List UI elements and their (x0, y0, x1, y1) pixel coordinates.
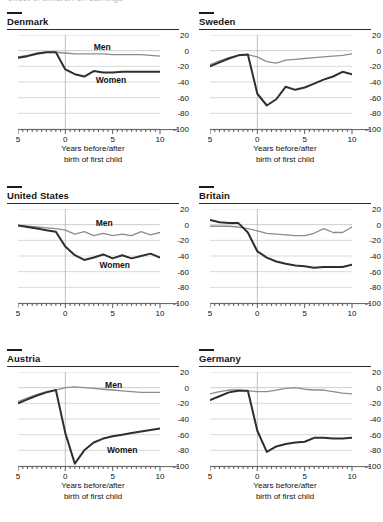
x-tick-label: 0 (63, 135, 67, 144)
caption-line-1: Years before/after (210, 481, 360, 492)
y-axis-labels: 200-20-40-60-80-100 (352, 372, 382, 466)
x-tick-label: 0 (255, 135, 259, 144)
panel-title: Germany (199, 353, 241, 364)
x-tick-label: 0 (255, 309, 259, 318)
x-tick-label: 5 (302, 135, 306, 144)
panel-grid: DenmarkMenWomen200-20-40-60-80-10050510Y… (0, 7, 383, 522)
x-tick-label: 10 (156, 309, 165, 318)
x-axis: 50510 (210, 303, 370, 317)
y-tick-label: -20 (177, 62, 189, 71)
panel-underline (7, 29, 179, 30)
panel-title-rule (199, 12, 214, 14)
y-tick-label: 20 (180, 31, 189, 40)
y-tick-label: -60 (177, 93, 189, 102)
series-label-women: Women (96, 75, 127, 85)
y-tick-label: 0 (377, 383, 381, 392)
plot-area (18, 372, 160, 466)
caption-line-1: Years before/after (18, 144, 168, 155)
series-line-women (210, 391, 352, 452)
plot-area (210, 372, 352, 466)
x-axis: 50510 (18, 129, 178, 143)
caption-line-2: birth of first child (210, 492, 360, 503)
x-axis: 50510 (210, 466, 370, 480)
panel-title-rule (7, 186, 22, 188)
caption-line-2: birth of first child (18, 155, 168, 166)
series-label-men: Men (96, 218, 113, 228)
y-tick-label: 0 (377, 220, 381, 229)
y-axis-labels: 200-20-40-60-80-100 (160, 372, 190, 466)
panel-united-states: United StatesMenWomen200-20-40-60-80-100… (0, 181, 192, 344)
series-label-women: Women (99, 260, 130, 270)
y-tick-label: 20 (372, 31, 381, 40)
cropped-title-text: effect of children on earnings (8, 0, 123, 3)
panel-title-rule (7, 12, 22, 14)
x-axis-caption: Years before/afterbirth of first child (210, 144, 360, 165)
panel-title: Britain (199, 190, 230, 201)
y-tick-label: -40 (177, 415, 189, 424)
x-axis: 50510 (18, 303, 178, 317)
panel-sweden: Sweden200-20-40-60-80-10050510Years befo… (192, 7, 383, 181)
y-axis-labels: 200-20-40-60-80-100 (352, 35, 382, 129)
y-tick-label: -40 (369, 78, 381, 87)
x-tick-label: 5 (110, 135, 114, 144)
x-tick-label: 10 (348, 309, 357, 318)
x-tick-label: 0 (255, 472, 259, 481)
y-tick-label: -80 (369, 283, 381, 292)
x-tick-label: 5 (208, 472, 212, 481)
plot-area (18, 209, 160, 303)
y-axis-labels: 200-20-40-60-80-100 (160, 209, 190, 303)
panel-underline (7, 203, 179, 204)
x-tick-label: 10 (348, 472, 357, 481)
panel-title-rule (199, 349, 214, 351)
x-tick-label: 5 (110, 472, 114, 481)
y-tick-label: -80 (177, 109, 189, 118)
x-tick-label: 5 (302, 309, 306, 318)
x-tick-label: 10 (156, 135, 165, 144)
series-line-men (18, 225, 160, 235)
y-tick-label: 20 (180, 368, 189, 377)
y-tick-label: -40 (369, 252, 381, 261)
x-tick-label: 5 (208, 135, 212, 144)
panel-title: United States (7, 190, 69, 201)
cropped-title-strip: effect of children on earnings (0, 0, 383, 7)
x-axis-caption: Years before/afterbirth of first child (18, 481, 168, 502)
y-tick-label: -80 (369, 109, 381, 118)
series-label-women: Women (107, 445, 138, 455)
chart-sheet: effect of children on earnings DenmarkMe… (0, 0, 383, 522)
panel-germany: Germany200-20-40-60-80-10050510Years bef… (192, 344, 383, 518)
plot-area (18, 35, 160, 129)
panel-austria: AustriaMenWomen200-20-40-60-80-10050510Y… (0, 344, 192, 518)
series-line-women (18, 52, 160, 76)
y-tick-label: -60 (177, 430, 189, 439)
x-axis-caption: Years before/afterbirth of first child (18, 144, 168, 165)
x-axis: 50510 (210, 129, 370, 143)
y-tick-label: -60 (369, 93, 381, 102)
y-tick-label: -80 (177, 283, 189, 292)
panel-underline (199, 203, 371, 204)
y-tick-label: 0 (185, 383, 189, 392)
panel-underline (199, 29, 371, 30)
x-tick-label: 5 (16, 135, 20, 144)
y-tick-label: -20 (369, 236, 381, 245)
y-tick-label: -20 (177, 236, 189, 245)
y-tick-label: -80 (177, 446, 189, 455)
caption-line-2: birth of first child (18, 492, 168, 503)
y-tick-label: 0 (185, 46, 189, 55)
x-tick-label: 0 (63, 309, 67, 318)
y-tick-label: 20 (372, 368, 381, 377)
panel-britain: Britain200-20-40-60-80-10050510 (192, 181, 383, 344)
y-tick-label: -40 (369, 415, 381, 424)
y-tick-label: 0 (185, 220, 189, 229)
series-line-women (18, 390, 160, 464)
panel-title-rule (7, 349, 22, 351)
series-line-men (210, 388, 352, 394)
y-tick-label: -40 (177, 78, 189, 87)
y-tick-label: -20 (177, 399, 189, 408)
y-tick-label: -60 (177, 267, 189, 276)
y-tick-label: -60 (369, 267, 381, 276)
caption-line-1: Years before/after (210, 144, 360, 155)
series-label-men: Men (94, 42, 111, 52)
series-line-men (210, 54, 352, 65)
x-axis-caption: Years before/afterbirth of first child (210, 481, 360, 502)
panel-title: Denmark (7, 16, 48, 27)
